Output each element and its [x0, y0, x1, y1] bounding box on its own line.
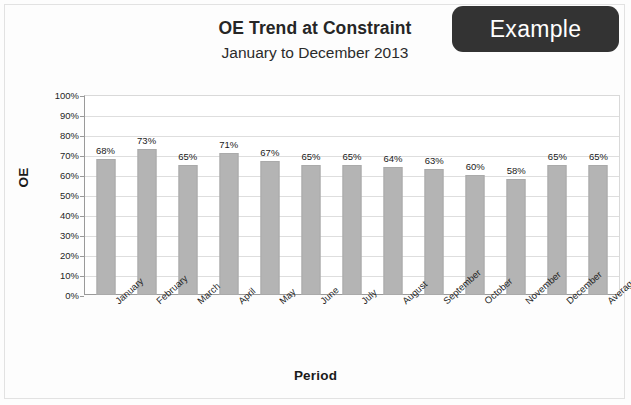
- y-axis-tick: [80, 196, 84, 197]
- y-axis-tick-label: 80%: [60, 130, 79, 141]
- x-axis-tick-label: June: [318, 298, 325, 306]
- x-axis-tick-label: December: [564, 298, 571, 306]
- y-axis-tick: [80, 96, 84, 97]
- x-axis-tick-labels: JanuaryFebruaryMarchAprilMayJuneJulyAugu…: [85, 298, 619, 358]
- y-axis-tick-label: 70%: [60, 150, 79, 161]
- x-axis-tick-label: February: [154, 298, 161, 306]
- x-axis-title: Period: [0, 368, 631, 383]
- page-subtitle: January to December 2013: [150, 43, 480, 64]
- bar-value-label: 73%: [137, 135, 156, 146]
- y-axis-tick: [80, 116, 84, 117]
- y-axis-tick-label: 0%: [65, 290, 79, 301]
- y-axis-tick-label: 50%: [60, 190, 79, 201]
- x-axis-tick-label: April: [236, 298, 243, 306]
- y-axis-tick-label: 40%: [60, 210, 79, 221]
- chart-screenshot: OE Trend at Constraint January to Decemb…: [0, 0, 631, 405]
- y-axis-tick: [80, 296, 84, 297]
- bar-slot: 65%: [167, 95, 208, 295]
- bar-value-label: 68%: [96, 145, 115, 156]
- example-badge-label: Example: [490, 16, 582, 43]
- bar: [260, 161, 279, 295]
- bar-value-label: 65%: [178, 151, 197, 162]
- y-axis-tick-label: 20%: [60, 250, 79, 261]
- x-axis-tick-label: March: [195, 298, 202, 306]
- bar-value-label: 65%: [342, 151, 361, 162]
- bar-slot: 65%: [578, 95, 619, 295]
- y-axis-tick-labels: 100%90%80%70%60%50%40%30%20%10%0%: [40, 95, 79, 295]
- bar-value-label: 65%: [589, 151, 608, 162]
- bar-slot: 58%: [496, 95, 537, 295]
- bar-slot: 65%: [290, 95, 331, 295]
- bar: [219, 153, 238, 295]
- bar: [425, 169, 444, 295]
- y-axis-tick-label: 100%: [55, 90, 79, 101]
- x-axis-tick-label: August: [400, 298, 407, 306]
- y-axis-tick: [80, 136, 84, 137]
- bar: [301, 165, 320, 295]
- bar-slot: 71%: [208, 95, 249, 295]
- bar-slot: 65%: [331, 95, 372, 295]
- y-axis-tick-label: 60%: [60, 170, 79, 181]
- x-axis-tick-label: January: [113, 298, 120, 306]
- y-axis-title: OE: [16, 168, 31, 188]
- bar-value-label: 65%: [301, 151, 320, 162]
- y-axis-tick: [80, 236, 84, 237]
- bar: [96, 159, 115, 295]
- bar-value-label: 60%: [466, 161, 485, 172]
- y-axis-tick: [80, 156, 84, 157]
- page-title: OE Trend at Constraint: [150, 18, 480, 40]
- bar: [384, 167, 403, 295]
- x-axis-tick-label: October: [482, 298, 489, 306]
- x-axis-tick-label: July: [359, 298, 366, 306]
- bar-slot: 65%: [537, 95, 578, 295]
- bar: [342, 165, 361, 295]
- y-axis-tick-label: 30%: [60, 230, 79, 241]
- x-axis-tick-label: November: [523, 298, 530, 306]
- x-axis-tick-label: Average: [605, 298, 612, 306]
- x-axis-tick-label: May: [277, 298, 284, 306]
- bar: [137, 149, 156, 295]
- chart-title-block: OE Trend at Constraint January to Decemb…: [150, 18, 480, 64]
- bar-value-label: 58%: [507, 165, 526, 176]
- y-axis-tick: [80, 176, 84, 177]
- y-axis-tick-label: 10%: [60, 270, 79, 281]
- bar-value-label: 64%: [384, 153, 403, 164]
- bar-value-label: 63%: [425, 155, 444, 166]
- bar-slot: 64%: [373, 95, 414, 295]
- y-axis-tick: [80, 256, 84, 257]
- y-axis-tick: [80, 216, 84, 217]
- bar-slot: 63%: [414, 95, 455, 295]
- example-badge: Example: [452, 6, 619, 52]
- bar-slot: 68%: [85, 95, 126, 295]
- y-axis-tick: [80, 276, 84, 277]
- bar-slot: 73%: [126, 95, 167, 295]
- bar-slot: 60%: [455, 95, 496, 295]
- bar-value-label: 67%: [260, 147, 279, 158]
- bar-series: 68%73%65%71%67%65%65%64%63%60%58%65%65%: [85, 95, 619, 295]
- y-axis-tick-label: 90%: [60, 110, 79, 121]
- bar-slot: 67%: [249, 95, 290, 295]
- bar-value-label: 71%: [219, 139, 238, 150]
- x-axis-tick-label: September: [441, 298, 448, 306]
- bar-value-label: 65%: [548, 151, 567, 162]
